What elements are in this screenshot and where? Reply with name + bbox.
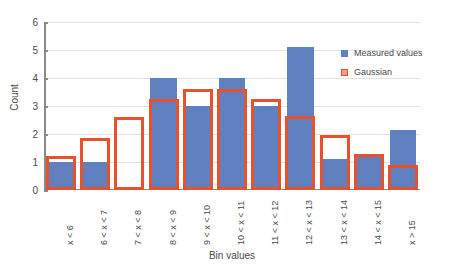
bar-group	[114, 22, 144, 190]
y-axis-tick-label: 2	[32, 129, 38, 140]
x-axis-tick-label: x > 15	[407, 220, 417, 245]
bar-group	[149, 22, 179, 190]
gaussian-outline-bar	[251, 99, 281, 190]
y-axis-tick-label: 4	[32, 73, 38, 84]
legend-item-gaussian: Gaussian	[341, 67, 423, 77]
bar-group	[46, 22, 76, 190]
x-axis-tick-label: 13 < x < 14	[339, 200, 349, 245]
legend-label-measured: Measured values	[354, 48, 423, 58]
bar-group	[251, 22, 281, 190]
legend-label-gaussian: Gaussian	[354, 67, 392, 77]
legend-swatch-measured-icon	[341, 50, 348, 57]
gaussian-outline-bar	[114, 117, 144, 190]
y-axis-tick-label: 3	[32, 101, 38, 112]
x-axis-tick-label: 11 < x < 12	[270, 201, 280, 245]
y-axis-tick-label: 0	[32, 185, 38, 196]
x-axis-tick-label: 7 < x < 8	[133, 210, 143, 245]
gaussian-outline-bar	[80, 138, 110, 190]
gaussian-outline-bar	[388, 165, 418, 190]
y-axis-title: Count	[9, 68, 20, 128]
y-axis-tick	[44, 190, 48, 192]
legend-swatch-gaussian-icon	[341, 69, 348, 76]
bar-group	[285, 22, 315, 190]
bar-group	[217, 22, 247, 190]
x-axis-tick-label: x < 6	[65, 225, 75, 245]
gaussian-outline-bar	[149, 99, 179, 190]
gaussian-outline-bar	[46, 156, 76, 190]
x-axis-tick-labels: x < 66 < x < 77 < x < 88 < x < 99 < x < …	[44, 193, 420, 249]
bar-group	[80, 22, 110, 190]
x-axis-title: Bin values	[44, 250, 420, 261]
histogram-chart: Count 0123456 x < 66 < x < 77 < x < 88 <…	[0, 0, 451, 273]
bar-group	[183, 22, 213, 190]
gaussian-outline-bar	[354, 154, 384, 190]
x-axis-tick-label: 8 < x < 9	[168, 210, 178, 245]
x-axis-tick-label: 6 < x < 7	[99, 210, 109, 245]
legend: Measured values Gaussian	[341, 48, 423, 86]
x-axis-tick-label: 14 < x < 15	[373, 200, 383, 245]
y-axis-tick-label: 1	[32, 157, 38, 168]
x-axis-tick-label: 10 < x < 11	[236, 201, 246, 245]
x-axis-tick-label: 12 < x < 13	[304, 200, 314, 245]
x-axis-tick-label: 9 < x < 10	[202, 205, 212, 245]
legend-item-measured: Measured values	[341, 48, 423, 58]
y-axis-tick-label: 6	[32, 17, 38, 28]
y-axis-tick-label: 5	[32, 45, 38, 56]
gaussian-outline-bar	[183, 89, 213, 190]
gaussian-outline-bar	[320, 135, 350, 190]
gaussian-outline-bar	[217, 89, 247, 190]
gaussian-outline-bar	[285, 116, 315, 190]
